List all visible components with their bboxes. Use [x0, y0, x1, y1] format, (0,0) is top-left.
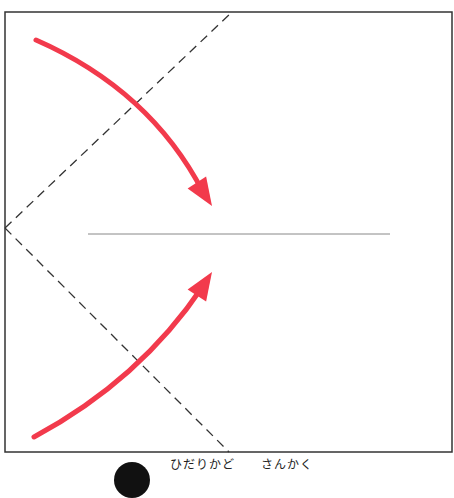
step-caption: ひだりかど さんかく	[114, 458, 313, 488]
paper-square	[5, 12, 452, 452]
step-number-badge	[114, 462, 150, 498]
step-instruction-text: ひだりかど さんかく	[170, 458, 313, 472]
